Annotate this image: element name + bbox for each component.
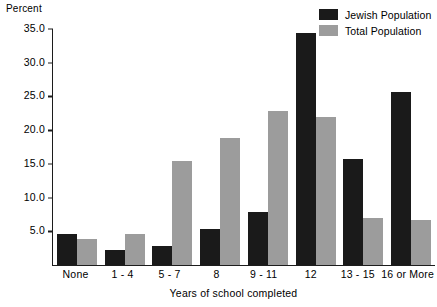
y-axis-tick-label: 25.0: [24, 89, 45, 101]
bar-jewish-population: [105, 250, 125, 265]
x-axis-tick-label: 16 or More: [381, 268, 434, 280]
legend-item-jewish-population: Jewish Population: [319, 8, 434, 21]
y-tick-mark: [48, 231, 53, 232]
x-axis-tick-label: 12: [287, 268, 334, 280]
bar-total-population: [268, 111, 288, 265]
legend-swatch-jewish-population: [319, 9, 338, 20]
y-axis-tick-label: 35.0: [24, 22, 45, 34]
bar-total-population: [411, 220, 431, 265]
x-axis-tick-label: None: [52, 268, 99, 280]
x-axis-labels: None1 - 45 - 789 - 111213 - 1516 or More: [52, 268, 434, 280]
plot-area: 5.010.015.020.025.030.035.0: [52, 29, 435, 266]
bar-total-population: [125, 234, 145, 265]
x-axis-tick-label: 9 - 11: [240, 268, 287, 280]
bar-group: [149, 29, 197, 265]
bar-jewish-population: [152, 246, 172, 265]
y-tick-mark: [48, 163, 53, 164]
y-axis-tick-label: 10.0: [24, 190, 45, 202]
bar-jewish-population: [296, 33, 316, 265]
bar-total-population: [363, 218, 383, 265]
x-axis-tick-label: 8: [193, 268, 240, 280]
y-tick-mark: [48, 29, 53, 30]
bar-total-population: [220, 138, 240, 265]
y-tick-mark: [48, 62, 53, 63]
y-axis-tick-label: 15.0: [24, 156, 45, 168]
bar-group: [53, 29, 101, 265]
bar-jewish-population: [248, 212, 268, 265]
y-axis-title: Percent: [6, 3, 42, 14]
bar-jewish-population: [200, 229, 220, 265]
y-tick-mark: [48, 96, 53, 97]
bar-group: [196, 29, 244, 265]
legend-label-jewish-population: Jewish Population: [345, 9, 431, 21]
y-tick-mark: [48, 197, 53, 198]
bar-group: [340, 29, 388, 265]
bar-jewish-population: [343, 159, 363, 265]
bar-total-population: [77, 239, 97, 265]
y-axis-tick-label: 20.0: [24, 123, 45, 135]
y-axis-tick-label: 5.0: [30, 224, 45, 236]
bar-jewish-population: [57, 234, 77, 265]
bar-jewish-population: [391, 92, 411, 265]
y-axis-tick-label: 30.0: [24, 55, 45, 67]
bar-chart: Percent Jewish Population Total Populati…: [0, 0, 437, 307]
x-axis-tick-label: 1 - 4: [99, 268, 146, 280]
bar-group: [292, 29, 340, 265]
bar-group: [244, 29, 292, 265]
bar-group: [101, 29, 149, 265]
y-tick-mark: [48, 130, 53, 131]
x-axis-title: Years of school completed: [0, 287, 437, 299]
x-axis-tick-label: 13 - 15: [334, 268, 381, 280]
bar-groups: [53, 29, 435, 265]
bar-group: [387, 29, 435, 265]
x-axis-tick-label: 5 - 7: [146, 268, 193, 280]
bar-total-population: [172, 161, 192, 265]
bar-total-population: [316, 117, 336, 265]
